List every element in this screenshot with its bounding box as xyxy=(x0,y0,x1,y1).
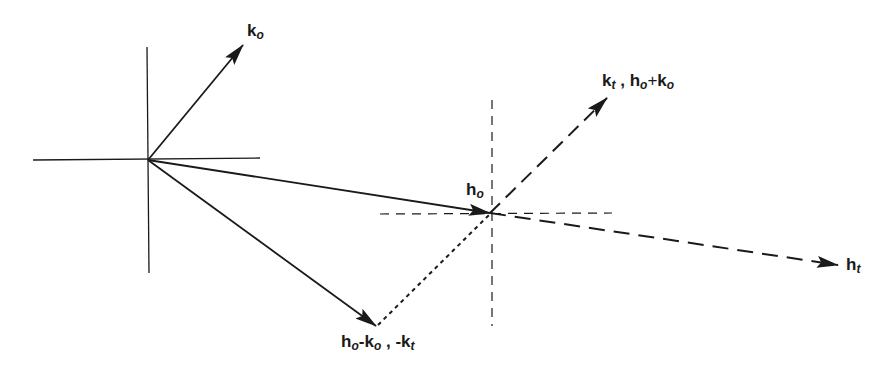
label-k-t-h-o-plus-k-o: kt , ho+ko xyxy=(602,72,674,91)
label-k-o: ko xyxy=(247,22,264,41)
origin-axes xyxy=(33,47,260,273)
vector-k-o xyxy=(148,45,243,160)
dotted-connector xyxy=(378,214,490,325)
vector-h-o xyxy=(148,160,490,213)
label-h-o-minus-k-o-minus-k-t: ho-ko , -kt xyxy=(341,333,415,352)
label-h-t: ht xyxy=(846,256,860,275)
vector-k-t xyxy=(490,98,607,213)
label-h-o: ho xyxy=(466,181,484,200)
vector-h-t xyxy=(490,213,838,265)
origin-horizontal-axis xyxy=(33,158,260,160)
vector-h-o-minus-k-o xyxy=(148,160,376,326)
vector-diagram xyxy=(0,0,896,366)
